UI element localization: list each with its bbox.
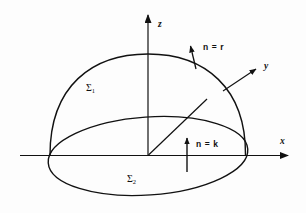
figure-canvas	[0, 0, 306, 213]
sigma1-label: Σ1	[86, 83, 95, 93]
normal-vector-sphere-arrow	[191, 46, 197, 69]
normal-vector-sphere-label: n = r	[203, 43, 224, 52]
y-axis-label: y	[264, 62, 268, 72]
vector-calculus-figure: z y x n = r n = k Σ1 Σ2	[0, 0, 306, 213]
sigma2-label: Σ2	[127, 174, 136, 184]
sigma2-subscript: 2	[133, 178, 136, 185]
x-axis-label: x	[280, 137, 285, 147]
sigma1-symbol: Σ	[86, 82, 92, 93]
sigma1-subscript: 1	[92, 87, 95, 94]
sigma2-symbol: Σ	[127, 173, 133, 184]
normal-vector-disk-label: n = k	[196, 140, 219, 149]
y-axis-arrow-segment	[223, 69, 256, 91]
z-axis-label: z	[158, 20, 162, 30]
